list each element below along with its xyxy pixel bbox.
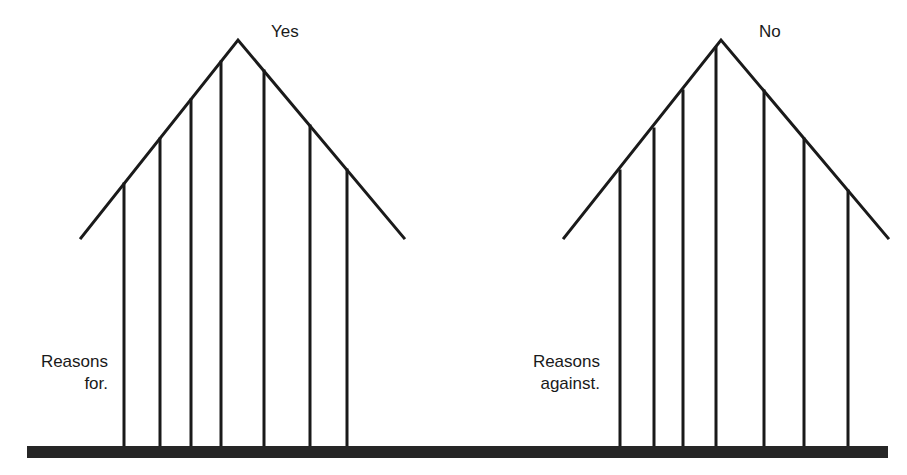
ground-base-bar: [27, 446, 888, 458]
yes-roof: [81, 40, 404, 446]
no-title: No: [759, 21, 781, 43]
reasons-against-line1: Reasons: [506, 351, 600, 373]
reasons-for-line2: for.: [18, 373, 108, 395]
no-roof: [564, 40, 888, 446]
no-roof-outline: [564, 40, 888, 238]
yes-title: Yes: [271, 21, 299, 43]
roof-diagram: [0, 0, 907, 475]
reasons-against-label: Reasons against.: [506, 351, 600, 395]
yes-roof-outline: [81, 40, 404, 238]
reasons-for-label: Reasons for.: [18, 351, 108, 395]
reasons-against-line2: against.: [506, 373, 600, 395]
reasons-for-line1: Reasons: [18, 351, 108, 373]
